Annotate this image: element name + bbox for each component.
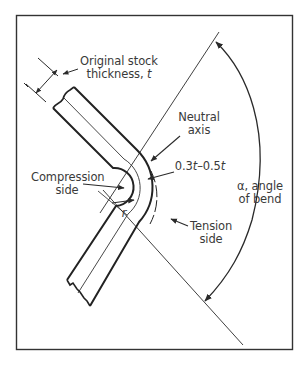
offset-range-label: 0.3t–0.5t xyxy=(174,160,226,173)
bend-diagram: Original stock thickness, t Neutral axis… xyxy=(0,0,304,369)
radius-arrow xyxy=(112,200,134,203)
neutral-axis-label: Neutral axis xyxy=(176,111,222,137)
thickness-leader xyxy=(63,69,78,74)
compression-side-label: Compression side xyxy=(31,171,103,197)
stock-thickness-line2: thickness, t xyxy=(79,68,159,81)
tension-leader xyxy=(171,219,188,226)
stock-thickness-label: Original stock thickness, t xyxy=(79,55,159,81)
thickness-dimension-arrow xyxy=(36,70,57,93)
tension-side-label: Tension side xyxy=(190,220,232,246)
radius-label: r xyxy=(120,207,128,220)
neutral-axis-leader xyxy=(151,136,180,161)
thickness-ext-line-1 xyxy=(38,58,58,76)
angle-of-bend-label: α, angle of bend xyxy=(232,180,288,206)
